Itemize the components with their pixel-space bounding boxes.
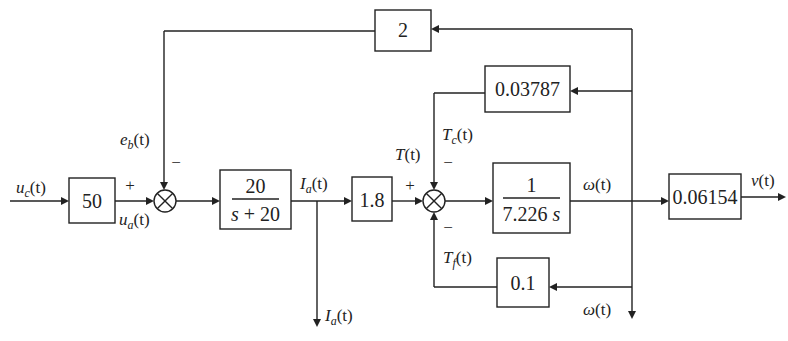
armature-denominator: s + 20: [231, 203, 280, 225]
arrow-icon: [313, 319, 321, 327]
label-ua: ua(t): [119, 210, 150, 232]
label-ia-out: Ia(t): [324, 306, 353, 328]
output-gain-value: 0.06154: [673, 186, 738, 208]
arrow-icon: [628, 311, 636, 319]
armature-numerator: 20: [246, 175, 266, 197]
label-omega-out: ω(t): [583, 300, 611, 319]
inertia-denominator: 7.226 s: [503, 203, 561, 225]
inertia-numerator: 1: [527, 174, 537, 196]
arrow-icon: [344, 197, 352, 205]
summing-junction-2: [423, 190, 445, 212]
input-gain-value: 50: [82, 190, 102, 212]
arrow-icon: [431, 25, 439, 33]
sum2-minus-bottom-sign: −: [443, 218, 453, 237]
arrow-icon: [661, 197, 669, 205]
arrow-icon: [485, 197, 493, 205]
label-omega-top: ω(t): [583, 175, 611, 194]
label-ia-top: Ia(t): [299, 174, 328, 196]
sum2-plus-sign: +: [405, 176, 415, 195]
summing-junction-1: [154, 190, 176, 212]
sum1-plus-sign: +: [125, 176, 135, 195]
arrow-icon: [549, 283, 557, 291]
coulomb-friction-value: 0.03787: [495, 78, 560, 100]
arrow-icon: [160, 182, 168, 190]
label-torque: T(t): [395, 145, 421, 164]
arrow-icon: [146, 197, 154, 205]
block-diagram: 50 20 s + 20 1.8 1 7.226 s 0.06154: [0, 0, 788, 341]
arrow-icon: [430, 182, 438, 190]
label-tc: Tc(t): [442, 125, 473, 147]
sum2-minus-top-sign: −: [443, 153, 453, 172]
label-uc: uc(t): [16, 178, 46, 200]
viscous-friction-value: 0.1: [511, 272, 536, 294]
torque-constant-value: 1.8: [360, 189, 385, 211]
arrow-icon: [415, 197, 423, 205]
label-v: v(t): [751, 171, 775, 190]
arrow-icon: [61, 197, 69, 205]
back-emf-value: 2: [398, 19, 408, 41]
arrow-icon: [570, 87, 578, 95]
label-tf: Tf(t): [443, 248, 472, 270]
label-eb: eb(t): [120, 130, 150, 152]
arrow-icon: [778, 193, 786, 201]
arrow-icon: [430, 212, 438, 220]
arrow-icon: [212, 197, 220, 205]
sum1-minus-sign: −: [171, 153, 181, 172]
